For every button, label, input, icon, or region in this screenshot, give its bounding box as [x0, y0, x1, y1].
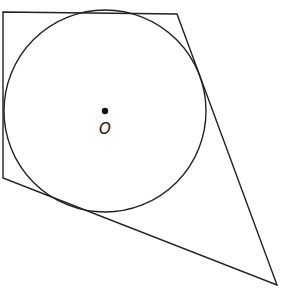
quadrilateral [3, 12, 277, 285]
center-label: O [99, 120, 111, 138]
center-point [102, 108, 108, 114]
diagram-canvas: O [0, 0, 286, 297]
